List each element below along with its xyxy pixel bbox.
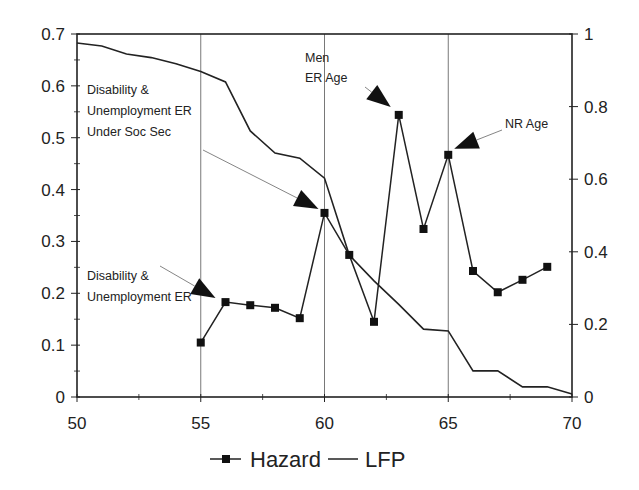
annotation-text: Unemployment ER xyxy=(87,104,192,118)
arrow-icon xyxy=(190,278,215,298)
x-tick-label: 65 xyxy=(439,414,458,433)
y-tick-label: 0 xyxy=(56,388,65,407)
hazard-series xyxy=(197,111,552,347)
legend-hazard-marker-icon xyxy=(222,455,230,463)
annotation-text: Under Soc Sec xyxy=(87,125,171,139)
hazard-marker-icon xyxy=(543,263,551,271)
annotation-text: Disability & xyxy=(87,269,149,283)
hazard-marker-icon xyxy=(395,111,403,119)
hazard-marker-icon xyxy=(420,225,428,233)
hazard-marker-icon xyxy=(321,209,329,217)
y2-tick-label: 0.8 xyxy=(584,98,608,117)
hazard-marker-icon xyxy=(469,267,477,275)
annotations: Disability &Unemployment ERUnder Soc Sec… xyxy=(87,51,548,304)
y2-tick-label: 0.2 xyxy=(584,315,608,334)
y-tick-label: 0.1 xyxy=(41,336,65,355)
annotation: Disability &Unemployment ERUnder Soc Sec xyxy=(87,83,319,209)
y2-tick-label: 0.4 xyxy=(584,243,608,262)
y2-tick-label: 0 xyxy=(584,388,593,407)
y2-tick-label: 0.6 xyxy=(584,170,608,189)
y-tick-label: 0.6 xyxy=(41,77,65,96)
hazard-marker-icon xyxy=(222,298,230,306)
hazard-marker-icon xyxy=(296,314,304,322)
legend: Hazard LFP xyxy=(210,447,405,472)
y-tick-label: 0.2 xyxy=(41,284,65,303)
arrow-icon xyxy=(293,190,318,209)
y2-tick-label: 1 xyxy=(584,25,593,44)
legend-hazard-label: Hazard xyxy=(250,447,321,472)
hazard-marker-icon xyxy=(519,276,527,284)
annotation: Disability &Unemployment ER xyxy=(87,266,216,304)
arrow-icon xyxy=(454,132,480,149)
chart: 00.10.20.30.40.50.60.700.20.40.60.815055… xyxy=(0,0,639,490)
legend-lfp-label: LFP xyxy=(365,447,405,472)
hazard-marker-icon xyxy=(246,301,254,309)
hazard-marker-icon xyxy=(197,339,205,347)
annotation: NR Age xyxy=(454,117,548,149)
annotation-text: Disability & xyxy=(87,83,149,97)
y-tick-label: 0.5 xyxy=(41,129,65,148)
hazard-marker-icon xyxy=(444,151,452,159)
annotation-text: Unemployment ER xyxy=(87,290,192,304)
y-tick-label: 0.3 xyxy=(41,232,65,251)
annotation-text: NR Age xyxy=(505,117,548,131)
hazard-marker-icon xyxy=(370,318,378,326)
hazard-marker-icon xyxy=(271,304,279,312)
x-tick-label: 55 xyxy=(191,414,210,433)
x-tick-label: 60 xyxy=(315,414,334,433)
annotation: MenER Age xyxy=(305,51,391,107)
y-tick-label: 0.7 xyxy=(41,25,65,44)
hazard-marker-icon xyxy=(345,251,353,259)
y-tick-label: 0.4 xyxy=(41,181,65,200)
annotation-text: ER Age xyxy=(305,71,347,85)
annotation-text: Men xyxy=(305,51,329,65)
x-tick-label: 50 xyxy=(68,414,87,433)
x-tick-label: 70 xyxy=(563,414,582,433)
arrow-icon xyxy=(366,85,390,107)
hazard-marker-icon xyxy=(494,288,502,296)
